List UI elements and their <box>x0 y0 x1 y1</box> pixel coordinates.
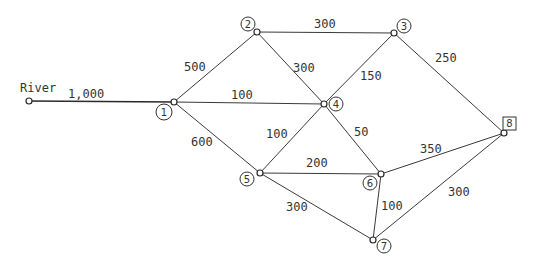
svg-text:4: 4 <box>333 99 339 110</box>
edge-4-6 <box>324 104 381 174</box>
edge-label-2-4: 300 <box>293 61 315 75</box>
edge-label-5-7: 300 <box>286 200 308 214</box>
edge-5-6 <box>260 173 381 174</box>
node-3 <box>391 30 397 36</box>
node-1 <box>171 99 177 105</box>
node-label-1: 1 <box>156 104 172 120</box>
svg-text:3: 3 <box>401 21 407 32</box>
svg-text:2: 2 <box>245 19 251 30</box>
edge-label-1-4: 100 <box>231 88 253 102</box>
edge-label-7-8: 300 <box>448 185 470 199</box>
node-label-2: 2 <box>241 17 255 31</box>
network-diagram: 1,000 500 100 600 300 300 150 250 100 50… <box>0 0 539 272</box>
svg-text:1: 1 <box>161 107 167 118</box>
node-2 <box>254 29 260 35</box>
node-label-7: 7 <box>377 239 391 253</box>
edge-label-3-4: 150 <box>360 69 382 83</box>
edge-river-1 <box>29 101 174 102</box>
river-label: River <box>20 81 56 95</box>
edge-label-3-8: 250 <box>435 51 457 65</box>
svg-text:5: 5 <box>244 174 250 185</box>
node-label-5: 5 <box>240 172 254 186</box>
edge-5-7 <box>260 173 373 240</box>
svg-text:6: 6 <box>367 178 373 189</box>
node-label-8: 8 <box>503 117 516 130</box>
svg-text:8: 8 <box>506 118 512 129</box>
edge-3-4 <box>324 33 394 104</box>
edge-label-4-5: 100 <box>266 127 288 141</box>
edge-label-4-6: 50 <box>354 125 368 139</box>
edge-label-6-8: 350 <box>420 142 442 156</box>
edge-2-3 <box>257 32 394 33</box>
node-7 <box>370 237 376 243</box>
edge-1-5 <box>174 102 260 173</box>
node-8 <box>501 130 507 136</box>
node-5 <box>257 170 263 176</box>
node-river <box>26 98 32 104</box>
edge-6-8 <box>381 133 504 174</box>
edge-3-8 <box>394 33 504 133</box>
edge-1-4 <box>174 102 324 104</box>
node-4 <box>321 101 327 107</box>
node-label-4: 4 <box>329 97 343 111</box>
edge-label-1-5: 600 <box>191 135 213 149</box>
node-6 <box>378 171 384 177</box>
node-label-6: 6 <box>363 176 377 190</box>
edge-label-5-6: 200 <box>306 156 328 170</box>
edge-label-6-7: 100 <box>381 199 403 213</box>
edge-label-2-3: 300 <box>314 17 336 31</box>
edge-label-1-2: 500 <box>184 60 206 74</box>
node-label-3: 3 <box>397 19 411 33</box>
svg-text:7: 7 <box>381 241 387 252</box>
edge-label-river-1: 1,000 <box>68 87 104 101</box>
